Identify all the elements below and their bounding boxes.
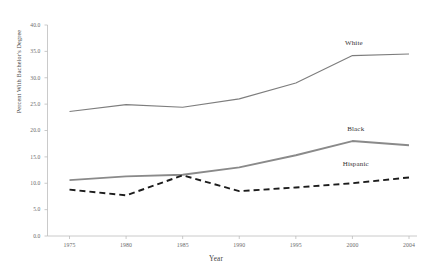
series-line-white bbox=[70, 54, 410, 112]
x-axis-tick-label: 1995 bbox=[276, 242, 316, 248]
y-axis-tick-label: 15.0 bbox=[15, 154, 41, 160]
y-axis-tick-label: 20.0 bbox=[15, 127, 41, 133]
x-axis-tick-label: 1985 bbox=[163, 242, 203, 248]
y-axis-tick-label: 30.0 bbox=[15, 75, 41, 81]
y-axis-tick-label: 5.0 bbox=[15, 206, 41, 212]
chart-container: Percent With Bachelor's Degree Year 0.05… bbox=[0, 0, 432, 273]
x-axis-tick-label: 2000 bbox=[332, 242, 372, 248]
series-label-hispanic: Hispanic bbox=[343, 160, 369, 168]
x-axis-tick-label: 1980 bbox=[106, 242, 146, 248]
series-label-white: White bbox=[345, 39, 363, 47]
x-axis-tick-label: 2004 bbox=[389, 242, 429, 248]
y-axis-tick-label: 35.0 bbox=[15, 48, 41, 54]
plot-area bbox=[0, 0, 432, 273]
y-axis-tick-label: 40.0 bbox=[15, 22, 41, 28]
series-line-hispanic bbox=[70, 175, 410, 195]
x-axis-tick-label: 1990 bbox=[219, 242, 259, 248]
series-label-black: Black bbox=[347, 125, 364, 133]
y-axis-tick-label: 25.0 bbox=[15, 101, 41, 107]
x-axis-tick-label: 1975 bbox=[50, 242, 90, 248]
y-axis-tick-label: 10.0 bbox=[15, 180, 41, 186]
y-axis-tick-label: 0.0 bbox=[15, 233, 41, 239]
